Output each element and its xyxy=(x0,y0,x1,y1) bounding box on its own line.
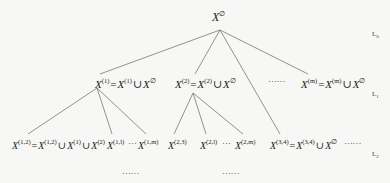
root-sup: ∅ xyxy=(219,10,225,17)
node-1-m: X(1,m) xyxy=(138,136,158,152)
node-1: X(1)=X(1)∪X∅ xyxy=(95,75,156,90)
edge-root-n2 xyxy=(195,30,220,74)
sup: (m) xyxy=(332,77,341,84)
edge-n2-n23 xyxy=(174,93,193,134)
var: X xyxy=(301,78,308,90)
level-label-2: L2 xyxy=(372,150,379,159)
eq-sign: = xyxy=(32,140,38,151)
node-1-2: X(1,2)=X(1,2)∪X(1)∪X(2) xyxy=(12,136,105,152)
sup: (3,4) xyxy=(302,138,314,145)
sup: ∅ xyxy=(359,77,365,84)
eq-sign: = xyxy=(290,140,296,151)
node-1-l: X(1,l) xyxy=(107,136,124,152)
sup: (m) xyxy=(308,77,317,84)
var: X xyxy=(223,78,230,90)
union-sign: ∪ xyxy=(213,78,222,90)
union-sign: ∪ xyxy=(58,140,66,151)
union-sign: ∪ xyxy=(316,140,324,151)
edge-n2-n2l xyxy=(193,93,206,134)
edge-root-nm xyxy=(220,30,308,74)
node-2-l: X(2,l) xyxy=(200,136,217,152)
node-3-4: X(3,4)=X(3,4)∪X∅ xyxy=(270,136,337,152)
ellipsis-2: … xyxy=(222,136,231,146)
sup: (1,m) xyxy=(144,138,158,145)
union-sign: ∪ xyxy=(342,78,351,90)
node-m: X(m)=X(m)∪X∅ xyxy=(301,75,365,90)
union-sign: ∪ xyxy=(133,78,142,90)
ellipsis-1: … xyxy=(128,136,137,146)
sup: (1,2) xyxy=(18,138,30,145)
sup: (1) xyxy=(73,138,81,145)
sup: ∅ xyxy=(331,138,337,145)
sup: (1,2) xyxy=(44,138,56,145)
var: X xyxy=(95,78,102,90)
tree-edges xyxy=(0,0,390,183)
node-2-m: X(2,m) xyxy=(235,136,255,152)
level-label-1: L1 xyxy=(372,90,379,99)
sup: (2) xyxy=(204,77,212,84)
sup: (2,3) xyxy=(174,138,186,145)
bottom-ellipsis-1: …… xyxy=(122,166,139,176)
eq-sign: = xyxy=(190,78,196,90)
root-node: X∅ xyxy=(212,8,225,23)
bottom-ellipsis-2: …… xyxy=(222,166,239,176)
level-0-sub: 0 xyxy=(376,34,379,39)
level2-tail-ellipsis: …… xyxy=(344,136,361,146)
eq-sign: = xyxy=(110,78,116,90)
sup: ∅ xyxy=(230,77,236,84)
edge-n2-n2m xyxy=(193,93,243,134)
sup: (1,l) xyxy=(113,138,124,145)
level1-ellipsis: …… xyxy=(268,74,285,84)
node-2-3: X(2,3) xyxy=(168,136,187,152)
sup: (2) xyxy=(97,138,105,145)
level-2-sub: 2 xyxy=(376,154,379,159)
edge-n1-n12 xyxy=(28,88,97,134)
sup: ∅ xyxy=(150,77,156,84)
sup: (1) xyxy=(124,77,132,84)
node-2: X(2)=X(2)∪X∅ xyxy=(175,75,236,90)
var: X xyxy=(175,78,182,90)
sup: (2,l) xyxy=(206,138,217,145)
sup: (2) xyxy=(182,77,190,84)
edge-root-n1 xyxy=(100,30,220,74)
level-label-0: L0 xyxy=(372,30,379,39)
var: X xyxy=(143,78,150,90)
sup: (1) xyxy=(102,77,110,84)
level-1-sub: 1 xyxy=(376,94,379,99)
union-sign: ∪ xyxy=(82,140,90,151)
sup: (3,4) xyxy=(276,138,288,145)
eq-sign: = xyxy=(318,78,324,90)
sup: (2,m) xyxy=(241,138,255,145)
